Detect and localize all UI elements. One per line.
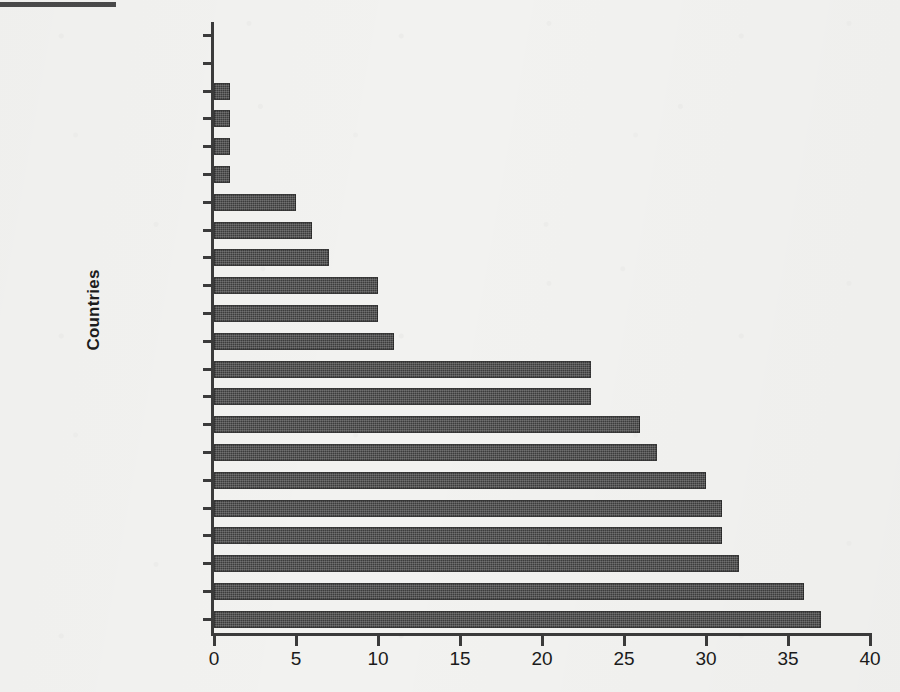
- x-axis-tick-label: 20: [512, 648, 572, 670]
- x-axis-tick-label: 40: [840, 648, 900, 670]
- bar: [214, 222, 312, 239]
- bar: [214, 110, 230, 127]
- y-axis-tick: [203, 562, 212, 565]
- x-axis-tick: [623, 636, 626, 646]
- bar: [214, 361, 591, 378]
- bar: [214, 166, 230, 183]
- y-axis-tick: [203, 451, 212, 454]
- bar: [214, 416, 640, 433]
- bar: [214, 333, 394, 350]
- bar: [214, 583, 804, 600]
- bar: [214, 444, 657, 461]
- x-axis-tick-label: 5: [266, 648, 326, 670]
- y-axis-tick: [203, 423, 212, 426]
- y-axis-tick: [203, 201, 212, 204]
- x-axis-tick-label: 15: [430, 648, 490, 670]
- bar: [214, 555, 739, 572]
- y-axis-tick: [203, 507, 212, 510]
- bar: [214, 472, 706, 489]
- bar: [214, 305, 378, 322]
- scan-crop-artifact: [0, 2, 116, 7]
- x-axis-tick-label: 10: [348, 648, 408, 670]
- bar: [214, 194, 296, 211]
- y-axis-tick: [203, 229, 212, 232]
- x-axis-tick: [377, 636, 380, 646]
- x-axis-tick: [541, 636, 544, 646]
- x-axis-tick: [869, 636, 872, 646]
- bar: [214, 527, 722, 544]
- y-axis-tick: [203, 312, 212, 315]
- x-axis-tick: [213, 636, 216, 646]
- y-axis-tick: [203, 340, 212, 343]
- x-axis-tick-label: 35: [758, 648, 818, 670]
- y-axis-tick: [203, 62, 212, 65]
- bar: [214, 83, 230, 100]
- y-axis-tick: [203, 534, 212, 537]
- y-axis-tick: [203, 173, 212, 176]
- y-axis-tick: [203, 34, 212, 37]
- horizontal-bar-chart: Countries KenyaBangladeshSouth AfricaInd…: [0, 0, 900, 692]
- y-axis-tick: [203, 145, 212, 148]
- y-axis-tick: [203, 90, 212, 93]
- x-axis-tick-label: 25: [594, 648, 654, 670]
- bar: [214, 138, 230, 155]
- bar: [214, 277, 378, 294]
- y-axis-tick: [203, 590, 212, 593]
- x-axis-tick: [459, 636, 462, 646]
- y-axis-tick: [203, 395, 212, 398]
- y-axis-tick: [203, 479, 212, 482]
- y-axis-tick: [203, 368, 212, 371]
- bar: [214, 611, 821, 628]
- y-axis-tick: [203, 284, 212, 287]
- x-axis-tick: [787, 636, 790, 646]
- x-axis-tick: [295, 636, 298, 646]
- bar: [214, 500, 722, 517]
- x-axis-tick: [705, 636, 708, 646]
- y-axis-tick: [203, 256, 212, 259]
- bar: [214, 388, 591, 405]
- y-axis-tick: [203, 618, 212, 621]
- bar: [214, 249, 329, 266]
- x-axis-tick-label: 30: [676, 648, 736, 670]
- y-axis-tick: [203, 117, 212, 120]
- y-axis-title: Countries: [84, 230, 104, 390]
- x-axis-tick-label: 0: [184, 648, 244, 670]
